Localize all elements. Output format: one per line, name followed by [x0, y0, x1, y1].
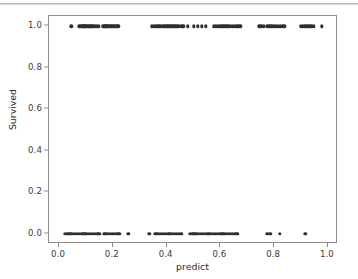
x-tick-label: 0.6	[202, 249, 236, 259]
scatter-point	[196, 25, 199, 28]
y-tick-label: 1.0	[20, 20, 42, 30]
scatter-point	[320, 25, 323, 28]
x-tick-label: 0.0	[41, 249, 75, 259]
scatter-point	[200, 25, 203, 28]
scatter-point	[239, 25, 242, 28]
scatter-point	[118, 232, 121, 235]
scatter-point	[283, 25, 286, 28]
scatter-point	[127, 232, 130, 235]
scatter-point	[147, 232, 150, 235]
x-tick-mark	[219, 243, 220, 247]
x-tick-mark	[273, 243, 274, 247]
x-tick-label: 0.4	[149, 249, 183, 259]
y-axis-label: Survived	[7, 70, 18, 150]
y-tick-label: 0.0	[20, 228, 42, 238]
x-tick-mark	[327, 243, 328, 247]
y-tick-label: 0.6	[20, 103, 42, 113]
x-tick-label: 0.2	[95, 249, 129, 259]
scatter-point	[204, 25, 207, 28]
matplotlib-figure: 0.00.20.40.60.81.0 Survived predict 0.00…	[0, 0, 358, 279]
scatter-point	[97, 25, 100, 28]
x-tick-mark	[58, 243, 59, 247]
scatter-point	[304, 232, 307, 235]
notebook-cell-divider	[0, 3, 358, 5]
y-tick-label: 0.8	[20, 62, 42, 72]
scatter-point	[180, 232, 183, 235]
scatter-point	[278, 232, 281, 235]
x-axis-label: predict	[48, 261, 337, 272]
scatter-point	[69, 25, 72, 28]
x-tick-label: 1.0	[310, 249, 344, 259]
y-tick-label: 0.4	[20, 145, 42, 155]
x-tick-label: 0.8	[256, 249, 290, 259]
scatter-point	[269, 232, 272, 235]
scatter-point	[192, 25, 195, 28]
scatter-point	[236, 232, 239, 235]
x-tick-mark	[166, 243, 167, 247]
x-tick-mark	[112, 243, 113, 247]
scatter-point	[182, 25, 185, 28]
plot-axes-area	[48, 15, 337, 243]
scatter-point	[312, 25, 315, 28]
scatter-point	[186, 25, 189, 28]
scatter-point	[98, 232, 101, 235]
y-tick-label: 0.2	[20, 186, 42, 196]
scatter-point	[117, 25, 120, 28]
